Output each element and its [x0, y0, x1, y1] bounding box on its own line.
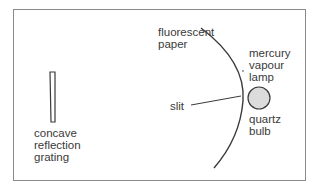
slit-leader-line [191, 96, 241, 105]
concave-grating-icon [50, 72, 55, 122]
label-quartz-bulb: quartz bulb [249, 113, 281, 137]
label-mercury-vapour-lamp: mercury vapour lamp [249, 47, 291, 83]
quartz-bulb-icon [248, 87, 270, 109]
label-slit: slit [170, 100, 184, 112]
label-fluorescent-paper: fluorescent paper [158, 26, 214, 50]
label-concave-reflection-grating: concave reflection grating [34, 127, 81, 163]
lamp-pointer-dot [242, 70, 244, 72]
